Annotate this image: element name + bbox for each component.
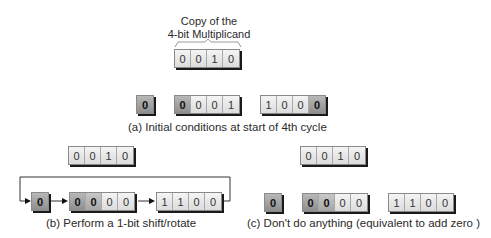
bit-cell: 0 (277, 96, 293, 113)
bit-cell: 0 (118, 193, 134, 210)
multiplicand-register-c: 0 0 1 0 (300, 146, 366, 165)
bit-cell: 0 (265, 194, 281, 211)
bit-cell: 0 (175, 50, 191, 67)
bit-cell: 0 (207, 96, 223, 113)
caption-b: (b) Perform a 1-bit shift/rotate (46, 217, 196, 229)
bit-cell: 0 (301, 147, 317, 164)
bit-cell: 0 (317, 147, 333, 164)
accumulator-register-a: 0 0 0 1 (174, 95, 240, 114)
multiplier-register-c: 1 1 0 0 (388, 193, 454, 212)
accumulator-register-c: 0 0 0 0 (302, 193, 368, 212)
bit-cell: 1 (333, 147, 349, 164)
multiplier-register-b: 1 1 0 0 (156, 192, 222, 211)
bit-cell: 0 (309, 96, 325, 113)
bit-cell: 0 (303, 194, 319, 211)
bit-cell: 0 (86, 193, 102, 210)
brace-icon (175, 39, 241, 47)
arrow-head-icon (62, 198, 68, 204)
bit-cell: 0 (189, 193, 205, 210)
bit-cell: 1 (101, 147, 117, 164)
bit-cell: 0 (191, 50, 207, 67)
bit-cell: 0 (349, 147, 365, 164)
bit-cell: 1 (405, 194, 421, 211)
carry-register-c: 0 (264, 193, 282, 212)
bit-cell: 0 (351, 194, 367, 211)
bit-cell: 0 (421, 194, 437, 211)
bit-cell: 1 (173, 193, 189, 210)
multiplier-register-a: 1 0 0 0 (260, 95, 326, 114)
bit-cell: 0 (85, 147, 101, 164)
bit-cell: 1 (261, 96, 277, 113)
arrow-head-icon (149, 198, 155, 204)
bit-cell: 1 (223, 96, 239, 113)
carry-register-a: 0 (136, 95, 154, 114)
carry-register-b: 0 (31, 192, 49, 211)
bit-cell: 0 (117, 147, 133, 164)
bit-cell: 1 (389, 194, 405, 211)
bit-cell: 0 (335, 194, 351, 211)
bit-cell: 0 (293, 96, 309, 113)
bit-cell: 1 (207, 50, 223, 67)
bit-cell: 0 (437, 194, 453, 211)
bit-cell: 0 (223, 50, 239, 67)
multiplicand-register-b: 0 0 1 0 (68, 146, 134, 165)
caption-c: (c) Don't do anything (equivalent to add… (247, 217, 480, 229)
bit-cell: 0 (205, 193, 221, 210)
bit-cell: 0 (175, 96, 191, 113)
caption-a: (a) Initial conditions at start of 4th c… (128, 121, 327, 133)
bit-cell: 1 (157, 193, 173, 210)
bit-cell: 0 (32, 193, 48, 210)
bit-cell: 0 (102, 193, 118, 210)
multiplicand-copy-register: 0 0 1 0 (174, 49, 240, 68)
accumulator-register-b: 0 0 0 0 (69, 192, 135, 211)
bit-cell: 0 (70, 193, 86, 210)
bit-cell: 0 (69, 147, 85, 164)
bit-cell: 0 (137, 96, 153, 113)
bit-cell: 0 (319, 194, 335, 211)
bit-cell: 0 (191, 96, 207, 113)
